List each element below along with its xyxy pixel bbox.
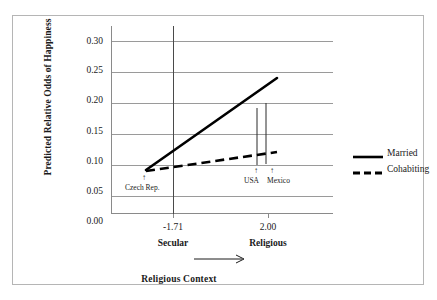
- plot-area: ↑ Czech Rep. ↑ USA ↑ Mexico: [111, 26, 333, 214]
- usa-arrow-icon: ↑: [254, 167, 258, 175]
- mexico-point-label: Mexico: [267, 176, 290, 185]
- y-tick-label-010: 0.10: [69, 156, 103, 166]
- x-tick-value-left: -1.71: [141, 222, 205, 232]
- legend-label-cohabiting: Cohabiting: [387, 164, 429, 174]
- y-axis-title: Predicted Relative Odds of Happiness: [43, 2, 53, 192]
- legend-swatch-solid-icon: [353, 148, 383, 158]
- y-tick-label-000: 0.00: [69, 216, 103, 226]
- x-anchor-secular: Secular: [141, 238, 205, 248]
- x-anchor-religious: Religious: [236, 238, 300, 248]
- legend-item-married: Married: [353, 145, 437, 161]
- chart-legend: Married Cohabiting: [353, 145, 437, 177]
- czech-arrow-icon: ↑: [142, 174, 146, 182]
- usa-point-label: USA: [244, 176, 259, 185]
- czech-point-label: Czech Rep.: [125, 183, 160, 192]
- y-tick-label-030: 0.30: [69, 36, 103, 46]
- y-tick-label-005: 0.05: [69, 186, 103, 196]
- x-tick-value-right: 2.00: [236, 222, 300, 232]
- y-tick-label-025: 0.25: [69, 65, 103, 75]
- x-axis-title: Religious Context: [141, 274, 216, 284]
- y-tick-label-020: 0.20: [69, 95, 103, 105]
- direction-arrow-icon: [194, 254, 250, 264]
- legend-swatch-dashed-icon: [353, 164, 383, 174]
- x-tick-mark-left: [173, 214, 174, 218]
- mexico-arrow-icon: ↑: [270, 167, 274, 175]
- y-tick-label-015: 0.15: [69, 126, 103, 136]
- legend-label-married: Married: [387, 148, 418, 158]
- figure-frame: Predicted Relative Odds of Happiness 0.3…: [12, 15, 424, 285]
- x-tick-mark-right: [268, 214, 269, 218]
- x-axis-title-wrap: Religious Context: [13, 274, 423, 284]
- legend-item-cohabiting: Cohabiting: [353, 161, 437, 177]
